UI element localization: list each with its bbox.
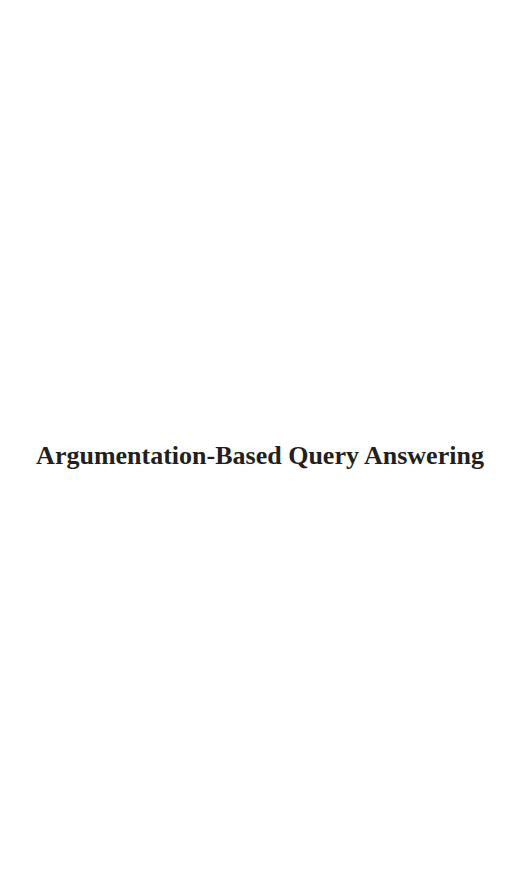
document-page: Argumentation-Based Query Answering xyxy=(0,0,530,879)
page-title: Argumentation-Based Query Answering xyxy=(0,439,520,473)
